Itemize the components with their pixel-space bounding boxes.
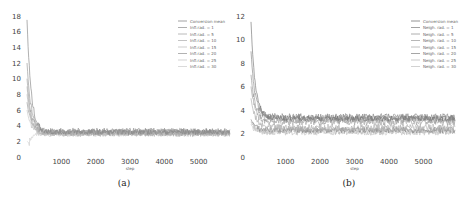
- y-tick-label: 12: [236, 13, 245, 21]
- panel-caption: (b): [343, 178, 356, 188]
- y-tick-label: 8: [241, 60, 245, 68]
- y-tick-label: 4: [241, 107, 246, 115]
- y-tick-label: 12: [12, 60, 21, 68]
- y-tick-label: 18: [12, 13, 21, 21]
- legend-label: Neigh. rad. = 25: [423, 58, 457, 63]
- legend-label: Conversion mean: [423, 19, 459, 24]
- chart-panel-a: 02468101214161810002000300040005000stepC…: [12, 13, 230, 189]
- legend-label: Infl.rad. = 1: [190, 25, 214, 30]
- y-tick-label: 4: [17, 122, 22, 130]
- x-tick-label: 1000: [277, 158, 295, 166]
- x-tick-label: 2000: [87, 158, 105, 166]
- legend-label: Conversion mean: [190, 19, 226, 24]
- legend-label: Infl.rad. = 25: [190, 58, 217, 63]
- y-tick-label: 14: [12, 44, 21, 52]
- y-tick-label: 16: [12, 28, 21, 36]
- x-axis-label: step: [126, 166, 135, 171]
- x-tick-label: 5000: [415, 158, 433, 166]
- chart-panel-b: 02468101210002000300040005000stepConvers…: [236, 13, 458, 189]
- y-tick-label: 6: [17, 107, 22, 115]
- y-tick-label: 0: [17, 154, 21, 162]
- series-line: [251, 98, 455, 131]
- panel-caption: (a): [118, 178, 130, 188]
- legend-label: Infl.rad. = 20: [190, 51, 217, 56]
- legend-label: Infl.rad. = 5: [190, 32, 214, 37]
- y-tick-label: 2: [241, 130, 245, 138]
- x-tick-label: 5000: [190, 158, 208, 166]
- legend-label: Neigh. rad. = 20: [423, 51, 457, 56]
- y-tick-label: 10: [12, 75, 21, 83]
- series-line: [251, 22, 455, 121]
- x-tick-label: 2000: [311, 158, 329, 166]
- legend-label: Neigh. rad. = 5: [423, 32, 454, 37]
- y-tick-label: 0: [241, 154, 245, 162]
- x-tick-label: 3000: [346, 158, 364, 166]
- legend-label: Neigh. rad. = 30: [423, 64, 457, 69]
- series-line: [27, 87, 230, 137]
- legend-label: Neigh. rad. = 10: [423, 38, 457, 43]
- x-tick-label: 3000: [121, 158, 139, 166]
- legend-label: Infl.rad. = 15: [190, 45, 217, 50]
- series-line: [27, 63, 230, 134]
- figure: 02468101214161810002000300040005000stepC…: [0, 0, 473, 204]
- legend-label: Infl.rad. = 10: [190, 38, 217, 43]
- y-tick-label: 2: [17, 138, 21, 146]
- y-tick-label: 10: [236, 36, 245, 44]
- x-tick-label: 4000: [155, 158, 173, 166]
- legend-label: Neigh. rad. = 1: [423, 25, 454, 30]
- legend-label: Neigh. rad. = 15: [423, 45, 457, 50]
- series-line: [27, 79, 230, 136]
- legend-label: Infl.rad. = 30: [190, 64, 217, 69]
- x-axis-label: step: [350, 166, 359, 171]
- y-tick-label: 6: [241, 83, 246, 91]
- x-tick-label: 1000: [52, 158, 70, 166]
- y-tick-label: 8: [17, 91, 21, 99]
- x-tick-label: 4000: [380, 158, 398, 166]
